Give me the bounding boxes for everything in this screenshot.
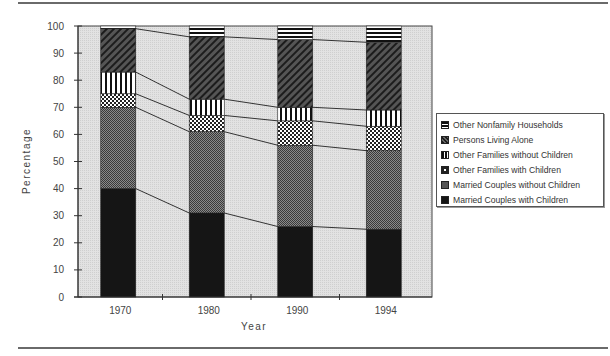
horizontal-stripes-swatch-icon (441, 121, 449, 129)
y-axis: 0102030405060708090100 (47, 21, 82, 303)
chart-legend: Other Nonfamily Households Persons Livin… (436, 113, 604, 207)
y-tick-label: 20 (53, 237, 65, 248)
x-tick-label: 1994 (375, 305, 398, 316)
bar-segment (278, 40, 313, 108)
y-tick-label: 10 (53, 264, 65, 275)
fine-mesh-swatch-icon (441, 181, 449, 189)
bar-segment (189, 115, 224, 131)
bar-segment (366, 151, 401, 230)
legend-item: Married Couples with Children (441, 192, 603, 207)
legend-item: Other Families with Children (441, 162, 603, 177)
bar-segment (278, 145, 313, 226)
solid-black-swatch-icon (441, 196, 449, 204)
legend-label: Other Nonfamily Households (453, 120, 563, 130)
y-tick-label: 60 (53, 129, 65, 140)
x-tick-label: 1990 (286, 305, 309, 316)
y-tick-label: 90 (53, 48, 65, 59)
y-tick-label: 0 (58, 292, 64, 303)
bar-segment (189, 26, 224, 37)
y-tick-label: 40 (53, 183, 65, 194)
bar-segment (189, 99, 224, 115)
legend-label: Other Families with Children (453, 165, 561, 175)
x-tick-label: 1970 (109, 305, 132, 316)
bar-segment (278, 227, 313, 297)
bar-segment (101, 72, 136, 94)
legend-label: Married Couples without Children (453, 180, 580, 190)
y-tick-label: 30 (53, 210, 65, 221)
bar-segment (101, 94, 136, 108)
checker-swatch-icon (441, 166, 449, 174)
bar-segment (366, 26, 401, 42)
legend-item: Married Couples without Children (441, 177, 603, 192)
bar-segment (366, 110, 401, 126)
y-tick-label: 80 (53, 75, 65, 86)
legend-label: Persons Living Alone (453, 135, 533, 145)
vertical-stripes-swatch-icon (441, 151, 449, 159)
diagonal-hatch-swatch-icon (441, 136, 449, 144)
bar-segment (278, 107, 313, 121)
legend-label: Other Families without Children (453, 150, 573, 160)
bar-segment (189, 37, 224, 99)
legend-item: Persons Living Alone (441, 132, 603, 147)
legend-item: Other Nonfamily Households (441, 117, 603, 132)
bar-segment (366, 229, 401, 297)
y-tick-label: 70 (53, 102, 65, 113)
x-axis: 1970198019901994 (74, 294, 432, 316)
y-tick-label: 100 (47, 21, 64, 32)
bar-1970 (101, 26, 136, 297)
y-axis-title: Percentage (21, 128, 32, 194)
bar-segment (189, 132, 224, 213)
bar-segment (366, 42, 401, 110)
bar-segment (101, 26, 136, 29)
bar-segment (278, 121, 313, 145)
bar-segment (278, 26, 313, 40)
legend-label: Married Couples with Children (453, 195, 568, 205)
bar-1994 (366, 26, 401, 297)
bar-1990 (278, 26, 313, 297)
x-axis-title: Year (241, 321, 267, 332)
bar-segment (189, 213, 224, 297)
y-tick-label: 50 (53, 156, 65, 167)
legend-item: Other Families without Children (441, 147, 603, 162)
bar-segment (101, 29, 136, 72)
bar-segment (101, 107, 136, 188)
bar-segment (366, 126, 401, 150)
bar-1980 (189, 26, 224, 297)
bar-segment (101, 189, 136, 297)
x-tick-label: 1980 (198, 305, 221, 316)
